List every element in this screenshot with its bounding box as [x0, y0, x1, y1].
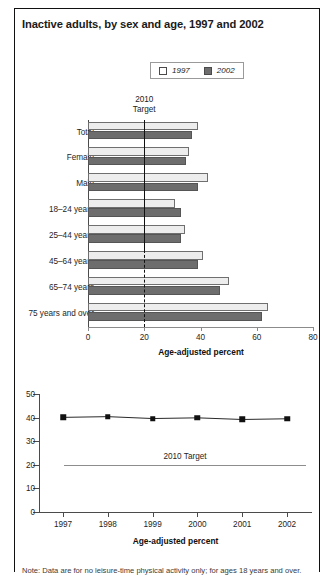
line-chart-data-point [105, 414, 111, 420]
bar-2002 [88, 208, 181, 217]
bar-2002 [88, 131, 192, 140]
line-chart-data-point [60, 415, 66, 421]
bar-chart-x-tick-label: 80 [308, 333, 317, 342]
bar-1997 [88, 173, 208, 182]
line-chart-data-point [284, 416, 290, 422]
figure-page: Inactive adults, by sex and age, 1997 an… [0, 0, 331, 578]
bar-chart: 2010 Target TotalFemaleMale18–24 years25… [0, 95, 331, 365]
bar-chart-x-axis-title: Age-adjusted percent [88, 347, 314, 357]
bar-2002 [88, 312, 262, 321]
bar-1997 [88, 199, 175, 208]
line-chart-x-axis-title: Age-adjusted percent [39, 536, 312, 546]
legend-item-2002: 2002 [204, 66, 235, 75]
bar-chart-target-line-dashed [144, 250, 145, 328]
figure-note: Note: Data are for no leisure-time physi… [22, 566, 322, 575]
bar-2002 [88, 286, 220, 295]
line-chart-data-point [239, 417, 245, 423]
bar-2002 [88, 183, 198, 192]
legend-swatch-2002-icon [204, 67, 212, 75]
legend-label-1997: 1997 [172, 66, 190, 75]
bar-chart-x-tick-label: 60 [252, 333, 261, 342]
bar-chart-x-tick [201, 327, 202, 331]
bar-1997 [88, 303, 268, 312]
bar-1997 [88, 251, 203, 260]
bar-1997 [88, 147, 189, 156]
bar-chart-target-line-solid [144, 120, 145, 250]
bar-2002 [88, 234, 181, 243]
chart-legend: 1997 2002 [150, 62, 244, 79]
bar-chart-x-tick [88, 327, 89, 331]
page-title: Inactive adults, by sex and age, 1997 an… [22, 18, 312, 31]
bar-chart-x-tick-label: 40 [196, 333, 205, 342]
bar-chart-x-tick [144, 327, 145, 331]
legend-label-2002: 2002 [217, 66, 235, 75]
bar-2002 [88, 157, 186, 166]
bar-1997 [88, 225, 185, 234]
legend-item-1997: 1997 [159, 66, 190, 75]
target-annotation-top: 2010 Target [107, 95, 181, 114]
bar-chart-category-label: 75 years and over [28, 309, 94, 318]
target-annotation-line2: Target [107, 105, 181, 115]
bar-chart-x-tick [257, 327, 258, 331]
line-chart: 01020304050 199719981999200020012002 201… [0, 388, 331, 563]
bar-1997 [88, 122, 198, 131]
bar-chart-x-tick-label: 0 [86, 333, 91, 342]
target-annotation-line1: 2010 [107, 95, 181, 105]
bar-1997 [88, 277, 229, 286]
legend-swatch-1997-icon [159, 67, 167, 75]
bar-2002 [88, 260, 198, 269]
line-chart-data-point [195, 415, 201, 421]
bar-chart-x-tick-label: 20 [140, 333, 149, 342]
line-chart-data-point [150, 416, 156, 422]
bar-chart-x-tick [313, 327, 314, 331]
